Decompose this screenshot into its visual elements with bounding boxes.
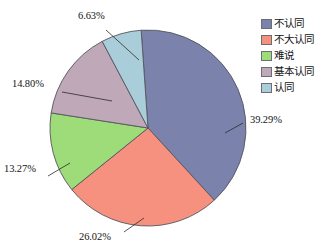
slice-value-label-disagree: 39.29% (250, 114, 282, 125)
legend-item-hard-to-say[interactable]: 难说 (261, 48, 331, 63)
slice-value-label-hard-to-say: 13.27% (4, 163, 36, 174)
legend-item-disagree[interactable]: 不认同 (261, 16, 331, 31)
legend-swatch-icon-somewhat-disagree (261, 35, 272, 45)
slice-value-label-somewhat-disagree: 26.02% (79, 231, 111, 242)
pie-chart: 39.29% 26.02% 13.27% 14.80% 6.63% 不认同不大认… (0, 0, 331, 250)
legend-label-somewhat-disagree: 不大认同 (274, 34, 314, 45)
legend-swatch-icon-disagree (261, 19, 272, 29)
legend-swatch-icon-hard-to-say (261, 51, 272, 61)
slice-value-label-agree: 6.63% (78, 10, 105, 21)
legend-label-agree: 认同 (274, 82, 294, 93)
legend-swatch-icon-agree (261, 83, 272, 93)
legend-label-basically-agree: 基本认同 (274, 66, 314, 77)
legend-item-basically-agree[interactable]: 基本认同 (261, 64, 331, 79)
legend-item-somewhat-disagree[interactable]: 不大认同 (261, 32, 331, 47)
legend-label-disagree: 不认同 (274, 18, 304, 29)
slice-value-label-basically-agree: 14.80% (12, 78, 44, 89)
pie-slice-group (50, 30, 246, 226)
legend-swatch-icon-basically-agree (261, 67, 272, 77)
legend-label-hard-to-say: 难说 (274, 50, 294, 61)
legend: 不认同不大认同难说基本认同认同 (261, 16, 331, 96)
legend-item-agree[interactable]: 认同 (261, 80, 331, 95)
